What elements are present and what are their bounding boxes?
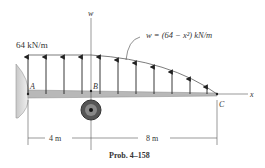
point-b-label: B — [93, 82, 98, 91]
equation-label: w = (64 − x²) kN/m — [146, 30, 212, 40]
load-arrows — [28, 57, 207, 94]
point-c-label: C — [219, 100, 225, 109]
point-c-dot — [216, 93, 218, 95]
point-a-dot — [27, 93, 29, 95]
beam — [28, 90, 217, 98]
point-a-label: A — [29, 82, 35, 91]
axis-w-label: w — [88, 9, 94, 18]
axis-x-label: x — [249, 90, 254, 99]
roller-support — [81, 100, 101, 120]
point-b-dot — [90, 90, 92, 92]
equation-leader — [126, 37, 140, 60]
beam-diagram: 64 kN/m w = (64 − x²) kN/m w x A B C 4 m… — [0, 0, 265, 168]
load-curve — [28, 55, 217, 94]
dim-bc-label: 8 m — [146, 134, 159, 143]
dim-ab-label: 4 m — [49, 134, 62, 143]
wall-support — [16, 64, 28, 118]
load-label: 64 kN/m — [16, 40, 48, 50]
caption: Prob. 4–158 — [109, 151, 150, 160]
